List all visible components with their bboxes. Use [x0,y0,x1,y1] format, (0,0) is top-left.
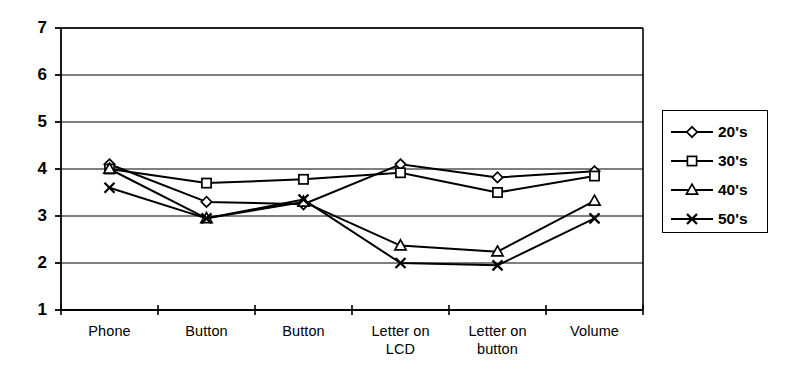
series-line [110,164,595,204]
x-tick-label: Button [255,322,352,340]
marker-triangle-icon [589,195,600,205]
marker-cross-icon [105,183,115,193]
line-chart: 1234567 PhoneButtonButtonLetter onLCDLet… [0,0,799,380]
y-tick-label: 5 [25,113,47,130]
marker-square-icon [299,175,308,184]
legend-item-label: 40's [718,182,748,198]
y-tick-label: 4 [25,160,47,177]
legend-item-label: 50's [718,211,748,227]
legend-item-20s[interactable]: 20's [663,117,767,147]
y-tick-label: 1 [25,301,47,318]
legend-item-label: 30's [718,153,748,169]
x-tick-label-line: button [449,340,546,358]
x-tick-label-line: LCD [352,340,449,358]
legend-marker-square-icon [670,152,714,170]
x-tick-label-line: Button [158,322,255,340]
series-line [110,169,595,193]
marker-diamond-icon [492,172,502,182]
x-tick-label: Letter onLCD [352,322,449,358]
x-tick-label-line: Volume [546,322,643,340]
legend-item-label: 20's [718,124,748,140]
x-tick-label: Button [158,322,255,340]
y-tick-label: 6 [25,66,47,83]
y-tick-label: 3 [25,207,47,224]
chart-legend: 20's30's40's50's [662,110,768,233]
x-tick-label-line: Button [255,322,352,340]
x-tick-label: Phone [61,322,158,340]
legend-item-30s[interactable]: 30's [663,146,767,176]
x-tick-label-line: Phone [61,322,158,340]
legend-item-50s[interactable]: 50's [663,204,767,234]
marker-square-icon [493,188,502,197]
series-line [110,188,595,266]
x-tick-label-line: Letter on [352,322,449,340]
x-tick-label: Volume [546,322,643,340]
x-tick-label-line: Letter on [449,322,546,340]
marker-square-icon [396,168,405,177]
marker-diamond-icon [687,127,697,137]
marker-square-icon [590,171,599,180]
marker-cross-icon [590,213,600,223]
legend-item-40s[interactable]: 40's [663,175,767,205]
legend-marker-diamond-icon [670,123,714,141]
marker-square-icon [687,156,696,165]
marker-square-icon [202,179,211,188]
legend-marker-triangle-icon [670,181,714,199]
x-tick-label: Letter onbutton [449,322,546,358]
series-20s [104,159,599,209]
legend-marker-cross-icon [670,210,714,228]
series-50s [105,183,600,271]
y-tick-label: 7 [25,19,47,36]
y-tick-label: 2 [25,254,47,271]
marker-diamond-icon [201,197,211,207]
